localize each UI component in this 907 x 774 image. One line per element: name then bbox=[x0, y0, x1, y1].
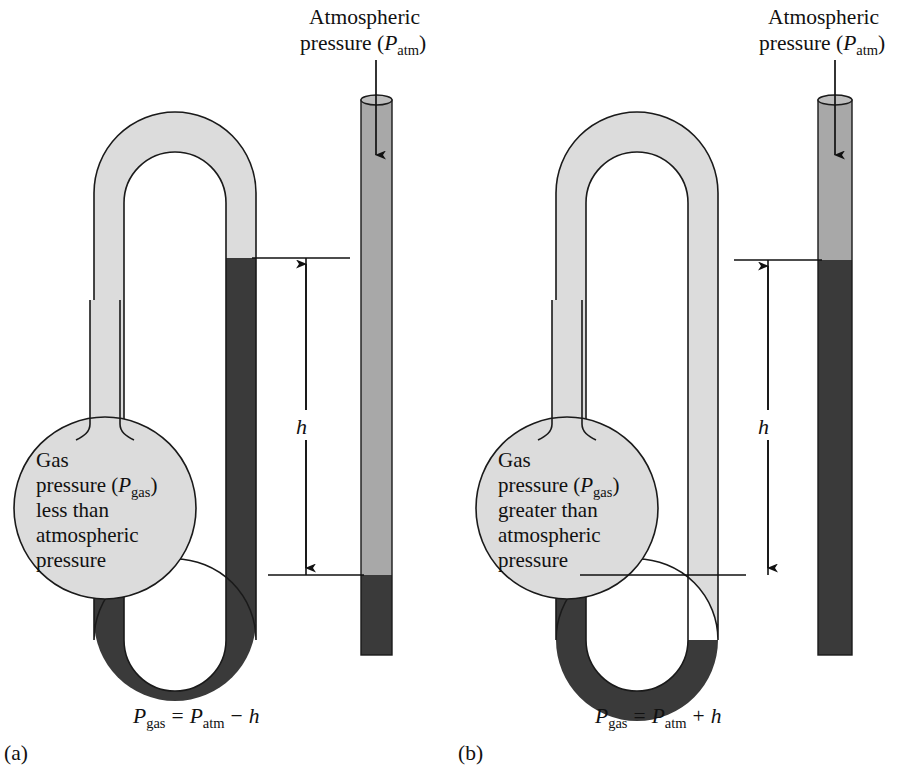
panel-a-eq-lhs-sub: gas bbox=[146, 715, 166, 731]
panel-b: Gas pressure (Pgas) greater than atmosph… bbox=[458, 5, 885, 765]
panel-a-bulb-neck bbox=[90, 300, 120, 430]
panel-a-bulb-line-2-pre: pressure ( bbox=[36, 473, 118, 497]
panel-a: Gas pressure (Pgas) less than atmospheri… bbox=[4, 5, 426, 765]
panel-b-atmos-line-1: Atmospheric bbox=[768, 5, 879, 29]
panel-b-bulb-line-1: Gas bbox=[498, 448, 531, 472]
panel-b-bulb-neck bbox=[552, 300, 582, 430]
panel-b-eq-lhs: P bbox=[594, 704, 608, 728]
panel-b-bulb-line-2-symbol: P bbox=[579, 473, 593, 497]
manometer-diagram-svg: Gas pressure (Pgas) less than atmospheri… bbox=[0, 0, 907, 774]
panel-b-eq-equals: = bbox=[633, 704, 645, 728]
panel-b-height-label: h bbox=[758, 414, 769, 439]
panel-a-eq-h: h bbox=[249, 704, 260, 728]
panel-b-open-tube bbox=[818, 95, 852, 655]
panel-b-eq-lhs-sub: gas bbox=[608, 715, 628, 731]
panel-a-atmos-line-2: pressure (Patm) bbox=[300, 31, 426, 58]
panel-b-eq-rhs-sub: atm bbox=[665, 715, 687, 731]
panel-a-atmos-symbol: P bbox=[383, 31, 397, 55]
panel-b-atmos-symbol: P bbox=[842, 31, 856, 55]
panel-b-bulb-line-5: pressure bbox=[498, 548, 568, 572]
panel-b-bulb-line-2-pre: pressure ( bbox=[498, 473, 580, 497]
panel-a-bulb-line-2-post: ) bbox=[150, 473, 157, 497]
panel-a-eq-equals: = bbox=[171, 704, 183, 728]
panel-a-label: (a) bbox=[4, 741, 28, 765]
panel-b-bulb-line-3: greater than bbox=[498, 498, 598, 522]
panel-b-open-tube-mercury bbox=[818, 260, 852, 655]
panel-b-bore bbox=[586, 152, 688, 691]
panel-a-eq-operator: − bbox=[231, 704, 243, 728]
panel-a-atmos-line-1: Atmospheric bbox=[309, 5, 420, 29]
panel-b-atmos-post: ) bbox=[878, 31, 885, 55]
panel-a-bulb-line-1: Gas bbox=[36, 448, 69, 472]
panel-a-open-tube-body bbox=[361, 100, 392, 580]
panel-a-bore bbox=[124, 152, 226, 691]
panel-a-bulb-line-3: less than bbox=[36, 498, 109, 522]
panel-a-equation: Pgas=Patm−h bbox=[132, 704, 259, 731]
panel-b-eq-operator: + bbox=[693, 704, 705, 728]
panel-a-bulb-line-5: pressure bbox=[36, 548, 106, 572]
panel-b-atmos-line-2: pressure (Patm) bbox=[759, 31, 885, 58]
panel-a-atmos-sub: atm bbox=[397, 42, 419, 58]
panel-b-bulb-line-4: atmospheric bbox=[498, 523, 601, 547]
panel-a-bulb-line-2-symbol: P bbox=[117, 473, 131, 497]
panel-b-bulb-line-2-post: ) bbox=[612, 473, 619, 497]
panel-b-atmos-pre: pressure ( bbox=[759, 31, 843, 55]
panel-a-open-tube bbox=[361, 95, 392, 655]
panel-a-bulb-line-4: atmospheric bbox=[36, 523, 139, 547]
panel-a-height-label: h bbox=[296, 414, 307, 439]
panel-a-atmos-pre: pressure ( bbox=[300, 31, 384, 55]
panel-b-label: (b) bbox=[458, 741, 483, 765]
panel-a-open-tube-mercury bbox=[361, 575, 392, 655]
panel-b-eq-h: h bbox=[711, 704, 722, 728]
manometer-figure: Gas pressure (Pgas) less than atmospheri… bbox=[0, 0, 907, 774]
panel-a-bulb-line-2-sub: gas bbox=[131, 484, 151, 500]
panel-a-atmos-post: ) bbox=[419, 31, 426, 55]
panel-b-eq-rhs: P bbox=[651, 704, 665, 728]
panel-a-eq-rhs-sub: atm bbox=[203, 715, 225, 731]
panel-a-eq-rhs: P bbox=[189, 704, 203, 728]
panel-a-eq-lhs: P bbox=[132, 704, 146, 728]
panel-b-atmos-sub: atm bbox=[856, 42, 878, 58]
panel-a-height-measure: h bbox=[252, 258, 364, 575]
